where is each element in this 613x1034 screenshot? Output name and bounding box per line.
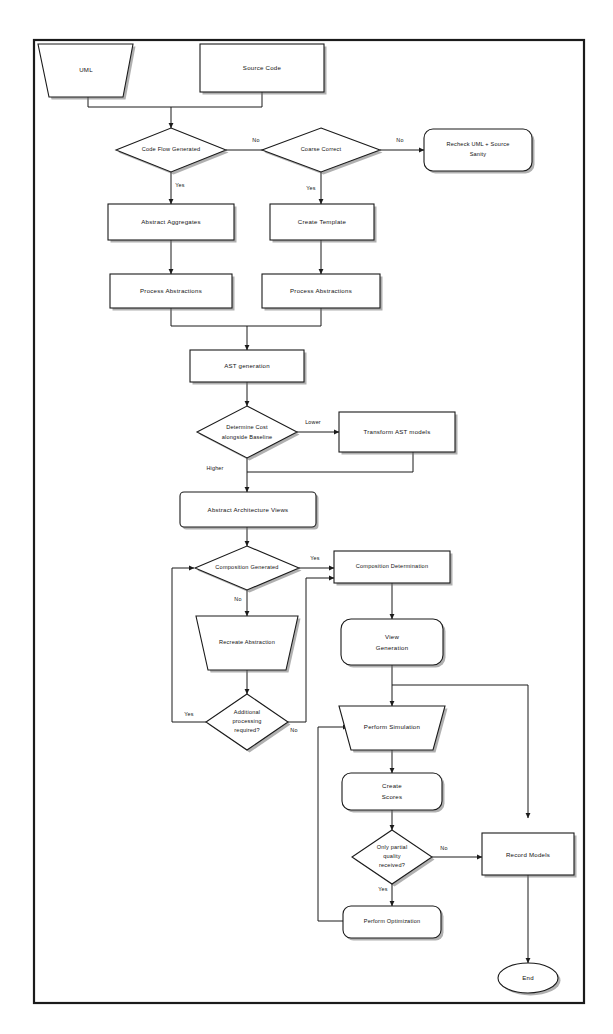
node-additional-processing-line1: Additional xyxy=(234,709,261,715)
node-abstract-architecture-views-label: Abstract Architecture Views xyxy=(208,506,289,513)
node-recheck-sanity[interactable]: Recheck UML + Source Sanity xyxy=(424,129,535,174)
node-only-partial-quality-line1: Only partial xyxy=(377,844,408,850)
node-perform-optimization[interactable]: Perform Optimization xyxy=(343,906,444,941)
node-only-partial-quality-line3: received? xyxy=(379,862,405,868)
node-create-scores-line2: Scores xyxy=(382,793,402,800)
node-record-models-label: Record Models xyxy=(506,851,550,858)
edge-label-cost-higher: Higher xyxy=(206,465,223,471)
node-coarse-correct-label: Coarse Correct xyxy=(301,146,342,152)
node-transform-ast-models[interactable]: Transform AST models xyxy=(339,412,458,455)
edge-label-cost-lower: Lower xyxy=(305,419,321,425)
node-ast-generation[interactable]: AST generation xyxy=(190,350,307,385)
node-determine-cost[interactable]: Determine Cost alongside Baseline xyxy=(197,406,300,461)
node-recheck-sanity-line1: Recheck UML + Source xyxy=(446,141,509,147)
edge-label-code-flow-no: No xyxy=(252,137,259,143)
node-composition-determination[interactable]: Composition Determination xyxy=(334,551,453,586)
node-abstract-aggregates-label: Abstract Aggregates xyxy=(141,218,201,225)
edge-label-additional-yes: Yes xyxy=(184,711,193,717)
edge-label-coarse-no: No xyxy=(396,137,403,143)
node-recheck-sanity-line2: Sanity xyxy=(470,151,487,157)
node-process-abstractions-left-label: Process Abstractions xyxy=(140,287,202,294)
node-view-generation-line1: View xyxy=(385,633,399,640)
node-create-scores[interactable]: Create Scores xyxy=(342,773,445,813)
node-only-partial-quality-line2: quality xyxy=(383,853,401,859)
node-determine-cost-line1: Determine Cost xyxy=(226,424,268,430)
node-code-flow-generated-label: Code Flow Generated xyxy=(142,146,201,152)
node-perform-simulation-label: Perform Simulation xyxy=(364,723,420,730)
node-only-partial-quality[interactable]: Only partial quality received? xyxy=(352,830,435,887)
node-additional-processing-line3: required? xyxy=(234,727,259,733)
edge-label-code-flow-yes: Yes xyxy=(175,182,184,188)
node-composition-determination-label: Composition Determination xyxy=(356,563,428,569)
node-create-template-label: Create Template xyxy=(298,218,347,225)
edge-label-additional-no: No xyxy=(290,727,297,733)
node-code-flow-generated[interactable]: Code Flow Generated xyxy=(116,128,229,175)
node-create-template[interactable]: Create Template xyxy=(270,204,377,243)
node-recreate-abstraction-label: Recreate Abstraction xyxy=(219,639,275,645)
node-additional-processing-line2: processing xyxy=(232,718,261,724)
node-determine-cost-line2: alongside Baseline xyxy=(222,434,273,440)
edge-processleft-down xyxy=(171,308,247,326)
node-perform-optimization-label: Perform Optimization xyxy=(364,918,421,924)
node-view-generation-line2: Generation xyxy=(376,644,409,651)
node-additional-processing[interactable]: Additional processing required? xyxy=(206,694,291,753)
node-recreate-abstraction[interactable]: Recreate Abstraction xyxy=(196,616,301,673)
node-coarse-correct[interactable]: Coarse Correct xyxy=(262,128,383,175)
node-abstract-aggregates[interactable]: Abstract Aggregates xyxy=(108,204,237,243)
node-composition-generated-label: Composition Generated xyxy=(215,564,278,570)
node-source-code-label: Source Code xyxy=(243,64,282,71)
edge-label-quality-yes: Yes xyxy=(378,886,387,892)
edge-transform-return xyxy=(247,452,413,472)
node-abstract-architecture-views[interactable]: Abstract Architecture Views xyxy=(180,492,319,530)
node-process-abstractions-right[interactable]: Process Abstractions xyxy=(262,274,383,311)
node-record-models[interactable]: Record Models xyxy=(482,833,577,878)
node-view-generation[interactable]: View Generation xyxy=(341,619,446,668)
edge-label-quality-no: No xyxy=(440,845,447,851)
node-process-abstractions-right-label: Process Abstractions xyxy=(290,287,352,294)
edge-optimization-to-simulation xyxy=(318,727,348,921)
node-create-scores-line1: Create xyxy=(382,782,402,789)
node-uml[interactable]: UML xyxy=(38,44,136,100)
edge-label-coarse-yes: Yes xyxy=(306,185,315,191)
node-source-code[interactable]: Source Code xyxy=(200,44,327,95)
node-composition-generated[interactable]: Composition Generated xyxy=(195,546,302,593)
node-ast-generation-label: AST generation xyxy=(224,362,270,369)
edge-additional-yes xyxy=(172,568,206,722)
edge-processright-down xyxy=(247,308,321,326)
node-process-abstractions-left[interactable]: Process Abstractions xyxy=(110,274,235,311)
node-uml-label: UML xyxy=(79,66,93,73)
node-end[interactable]: End xyxy=(498,963,561,996)
flowchart-canvas: UML Source Code Code Flow Generated Coar… xyxy=(0,0,613,1034)
node-transform-ast-models-label: Transform AST models xyxy=(364,428,431,435)
edge-additional-no xyxy=(288,578,334,722)
edge-label-composition-yes: Yes xyxy=(310,555,319,561)
node-end-label: End xyxy=(522,974,534,981)
node-perform-simulation[interactable]: Perform Simulation xyxy=(339,706,448,753)
edge-label-composition-no: No xyxy=(234,596,241,602)
